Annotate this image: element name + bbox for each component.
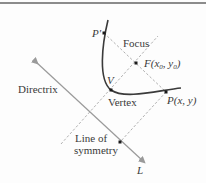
- label-focus-point: F(x0, y0): [143, 57, 181, 71]
- point-vertex: [110, 89, 113, 92]
- label-line-l: L: [136, 164, 143, 176]
- label-vertex-letter: V: [107, 74, 115, 86]
- label-symmetry: symmetry: [74, 144, 118, 156]
- parabola-diagram: P′ Focus F(x0, y0) V Vertex P(x, y) Dire…: [0, 0, 206, 183]
- label-line-of: Line of: [75, 132, 107, 144]
- label-p-prime: P′: [91, 27, 102, 39]
- point-focus: [135, 62, 138, 65]
- label-vertex-word: Vertex: [108, 96, 137, 108]
- label-directrix: Directrix: [18, 83, 58, 95]
- point-p-prime: [103, 32, 106, 35]
- label-focus-word: Focus: [123, 37, 149, 49]
- diagram-frame: P′ Focus F(x0, y0) V Vertex P(x, y) Dire…: [0, 0, 206, 183]
- point-directrix-foot: [119, 141, 122, 144]
- label-point-p: P(x, y): [166, 94, 197, 107]
